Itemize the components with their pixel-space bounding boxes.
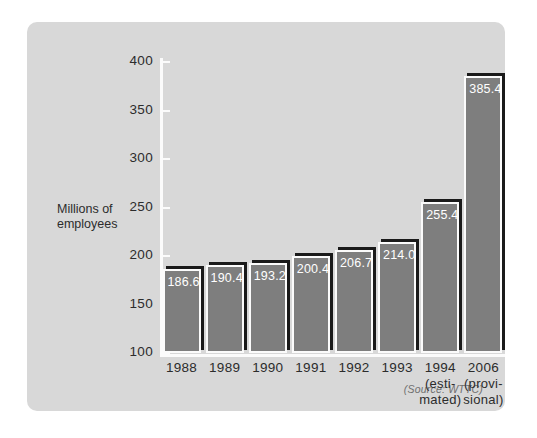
y-axis-tick	[163, 158, 170, 160]
y-axis-tick-label: 400	[107, 53, 153, 68]
bar[interactable]: 193.2	[249, 263, 287, 353]
y-axis-tick	[163, 110, 170, 112]
x-label-main: 1991	[295, 360, 326, 375]
x-label-sub: (provi-	[455, 376, 511, 392]
bar-group[interactable]: 193.2	[249, 263, 287, 353]
y-axis-tick-label: 200	[107, 247, 153, 262]
bar-value-label: 200.4	[294, 262, 332, 276]
chart-panel: Millions of employees 100150200250300350…	[27, 22, 505, 411]
bar[interactable]: 186.6	[163, 269, 201, 353]
y-axis-tick-label: 100	[107, 344, 153, 359]
x-label-main: 1993	[382, 360, 413, 375]
bar-value-label: 206.7	[337, 256, 375, 270]
bar-value-label: 255.4	[423, 208, 461, 222]
bar[interactable]: 200.4	[292, 256, 330, 353]
bar-value-label: 214.0	[380, 248, 418, 262]
bar-value-label: 193.2	[251, 269, 289, 283]
chart-figure: Millions of employees 100150200250300350…	[0, 0, 537, 438]
bar-group[interactable]: 186.6	[163, 269, 201, 353]
x-label-main: 1992	[338, 360, 369, 375]
y-axis-tick	[163, 207, 170, 209]
bar[interactable]: 190.4	[206, 265, 244, 353]
y-axis-tick-label: 150	[107, 296, 153, 311]
bar-group[interactable]: 190.4	[206, 265, 244, 353]
y-axis-tick	[163, 255, 170, 257]
bar-value-label: 186.6	[165, 275, 203, 289]
bar[interactable]: 385.4	[464, 76, 502, 353]
x-label-main: 1994	[425, 360, 456, 375]
bar[interactable]: 206.7	[335, 250, 373, 353]
y-axis-tick-label: 300	[107, 150, 153, 165]
bar-value-label: 190.4	[208, 271, 246, 285]
x-label-sub: sional)	[455, 392, 511, 408]
y-axis-tick	[163, 61, 170, 63]
x-label-main: 1990	[252, 360, 283, 375]
x-label-main: 1989	[209, 360, 240, 375]
y-axis-tick-labels: 100150200250300350400	[105, 22, 153, 411]
y-axis-tick-label: 250	[107, 199, 153, 214]
bar[interactable]: 214.0	[378, 242, 416, 353]
bar-group[interactable]: 206.7	[335, 250, 373, 353]
bar-group[interactable]: 385.4	[464, 76, 502, 353]
x-axis-tick-label: 2006(provi-sional)	[455, 360, 511, 408]
bar-group[interactable]: 214.0	[378, 242, 416, 353]
bar-group[interactable]: 200.4	[292, 256, 330, 353]
x-label-main: 1988	[166, 360, 197, 375]
x-label-main: 2006	[468, 360, 499, 375]
y-axis-tick-label: 350	[107, 102, 153, 117]
bar-group[interactable]: 255.4	[421, 202, 459, 353]
bar-value-label: 385.4	[466, 82, 504, 96]
bar[interactable]: 255.4	[421, 202, 459, 353]
x-axis-line	[160, 354, 505, 357]
